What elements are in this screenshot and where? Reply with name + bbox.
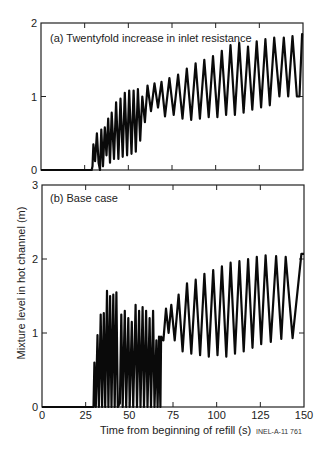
panel-b-series-line xyxy=(42,254,304,407)
panel-a: 012 (a) Twentyfold increase in inlet res… xyxy=(31,17,303,176)
panel-a-series-line xyxy=(41,34,303,170)
panel-a-title: (a) Twentyfold increase in inlet resista… xyxy=(50,32,252,44)
y-tick-label: 3 xyxy=(32,179,38,191)
x-axis-label: Time from beginning of refill (s) xyxy=(100,424,251,436)
y-tick-label: 0 xyxy=(31,164,37,176)
x-tick-label: 150 xyxy=(295,409,313,421)
y-tick-label: 1 xyxy=(31,91,37,103)
x-tick-label: 50 xyxy=(123,409,135,421)
figure-credit: INEL-A-11 761 xyxy=(256,428,302,435)
y-tick-label: 2 xyxy=(31,17,37,29)
x-tick-label: 125 xyxy=(251,409,269,421)
y-tick-label: 0 xyxy=(32,401,38,413)
x-tick-label: 75 xyxy=(167,409,179,421)
chart-figure: 012 (a) Twentyfold increase in inlet res… xyxy=(0,0,328,453)
x-tick-label: 25 xyxy=(80,409,92,421)
y-tick-label: 1 xyxy=(32,327,38,339)
y-tick-label: 2 xyxy=(32,253,38,265)
panel-b: 02550751001251500123 (b) Base case xyxy=(32,179,313,421)
panel-b-ticks: 02550751001251500123 xyxy=(32,179,313,421)
panel-b-title: (b) Base case xyxy=(50,192,118,204)
y-axis-label: Mixture level in hot channel (m) xyxy=(15,207,27,360)
x-tick-label: 100 xyxy=(207,409,225,421)
x-tick-label: 0 xyxy=(39,409,45,421)
panel-b-frame xyxy=(42,185,304,407)
